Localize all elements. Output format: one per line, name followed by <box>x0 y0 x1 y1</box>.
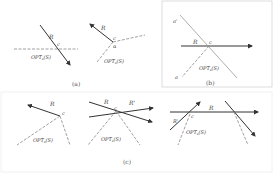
label-r-prime: R' <box>172 118 178 124</box>
label-opt: OPTs(S) <box>104 58 124 65</box>
label-c: c <box>191 113 194 119</box>
label-r: R <box>49 100 55 107</box>
ray-r-prime <box>170 102 200 130</box>
label-c: c <box>62 110 65 116</box>
caption-b: (b) <box>206 79 215 86</box>
label-r: R <box>192 38 198 45</box>
label-a-prime: a' <box>173 18 177 24</box>
label-c: c <box>209 39 212 45</box>
dashed-line-upper <box>113 35 145 42</box>
dashed-line-a <box>182 46 209 77</box>
caption-a: (a) <box>72 80 80 87</box>
label-opt: OPTs(S) <box>33 137 53 144</box>
label-a: a <box>175 74 178 80</box>
label-opt: OPTs(S) <box>199 65 219 72</box>
label-r: R <box>48 33 54 40</box>
label-opt: OPTs(S) <box>186 129 206 136</box>
dashed-line-right <box>60 116 70 145</box>
label-r-prime: R' <box>128 99 136 106</box>
caption-c: (c) <box>123 158 131 165</box>
label-c: c <box>57 41 60 47</box>
panel-c-2: R R' c OPTs(S) (c) <box>88 98 153 165</box>
label-c: c <box>113 35 116 41</box>
label-opt: OPTs(S) <box>101 136 121 143</box>
label-r: R <box>208 104 214 111</box>
panel-a-right: R c α OPTs(S) <box>90 24 145 65</box>
panel-b-border <box>162 1 272 87</box>
label-alpha: α <box>113 43 117 49</box>
panel-c-4 <box>225 101 255 145</box>
panel-c-1: R c OPTs(S) <box>17 100 70 145</box>
panel-a-left: R c OPTs(S) <box>14 25 78 65</box>
label-r: R <box>103 98 109 105</box>
ray-r-prime <box>89 108 153 117</box>
dashed-line <box>234 112 248 145</box>
label-opt: OPTs(S) <box>31 54 51 61</box>
label-c: c <box>114 105 117 111</box>
ray-r <box>28 105 60 116</box>
panel-b: a' a R c OPTs(S) (b) <box>162 1 272 87</box>
diagram-canvas: R c OPTs(S) R c α OPTs(S) (a) a' a R c O… <box>0 0 273 174</box>
label-r: R <box>100 24 106 31</box>
ray-crossing <box>225 101 255 136</box>
panel-c-border <box>1 92 272 172</box>
ray-r <box>89 102 152 122</box>
